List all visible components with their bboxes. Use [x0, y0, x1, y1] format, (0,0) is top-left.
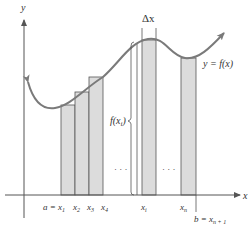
tick-label-x2: x2 [72, 202, 80, 213]
bar-xn [181, 58, 196, 195]
delta-x-marker: Δx [142, 12, 156, 40]
ellipsis-right: · · · [162, 164, 176, 174]
bar-xi [142, 40, 156, 195]
height-label: f(xi) [110, 115, 127, 128]
tick-labels: a = x1 x2 x3 x4 xi xn b = xn + 1 [43, 202, 226, 225]
ellipsis-left: · · · [114, 164, 128, 174]
tick-label-x3: x3 [86, 202, 94, 213]
bar-x2 [75, 92, 89, 195]
curve-label: y = f(x) [202, 58, 234, 70]
riemann-sum-diagram: Δx y x y = f(x) f(xi) · · · · · · a = x1… [0, 0, 251, 225]
bar-x3 [89, 77, 103, 195]
tick-label-b: b = xn + 1 [194, 214, 226, 225]
tick-label-x4: x4 [100, 202, 108, 213]
tick-label-a: a = x1 [43, 202, 65, 213]
y-axis-label: y [20, 2, 26, 13]
tick-label-xi: xi [140, 202, 147, 213]
x-axis-label: x [242, 190, 248, 201]
rectangles [61, 40, 196, 195]
delta-x-label: Δx [142, 12, 155, 24]
tick-label-xn: xn [179, 202, 187, 213]
bar-x1 [61, 105, 75, 195]
